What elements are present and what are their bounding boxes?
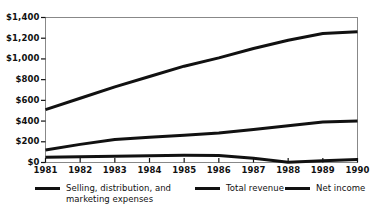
x-axis-tick-label: 1985 bbox=[167, 165, 201, 175]
x-axis-tick-label: 1989 bbox=[306, 165, 340, 175]
legend-swatch-line-icon bbox=[285, 187, 310, 190]
plot-frame bbox=[46, 18, 358, 163]
legend-swatch-line-icon bbox=[195, 187, 220, 190]
chart-legend: Selling, distribution, and marketing exp… bbox=[0, 181, 374, 214]
x-axis-tick-label: 1984 bbox=[133, 165, 167, 175]
y-axis-tick-label: $600 bbox=[15, 95, 39, 105]
y-axis-tick-label: $1,000 bbox=[6, 53, 39, 63]
y-axis-tick-label: $200 bbox=[15, 136, 39, 146]
x-axis-tick-label: 1986 bbox=[202, 165, 236, 175]
legend-label: Total revenue bbox=[226, 183, 284, 194]
x-axis-tick-label: 1983 bbox=[98, 165, 132, 175]
y-axis-tick-label: $800 bbox=[15, 74, 39, 84]
x-axis-tick-label: 1990 bbox=[341, 165, 374, 175]
legend-swatch-line-icon bbox=[35, 187, 60, 190]
legend-item[interactable]: Total revenue bbox=[195, 183, 284, 194]
legend-label: Selling, distribution, and marketing exp… bbox=[66, 183, 171, 204]
x-axis-tick-label: 1988 bbox=[271, 165, 305, 175]
y-axis-tick-label: $1,400 bbox=[6, 12, 39, 22]
series-line-0 bbox=[46, 32, 358, 110]
x-axis-tick-label: 1981 bbox=[29, 165, 63, 175]
series-line-1 bbox=[46, 121, 358, 150]
series-line-2 bbox=[46, 155, 358, 162]
y-axis-tick-label: $400 bbox=[15, 116, 39, 126]
x-axis-tick-label: 1987 bbox=[237, 165, 271, 175]
x-axis-tick-label: 1982 bbox=[63, 165, 97, 175]
legend-item[interactable]: Net income bbox=[285, 183, 365, 194]
legend-item[interactable]: Selling, distribution, and marketing exp… bbox=[35, 183, 171, 204]
y-axis-tick-label: $1,200 bbox=[6, 33, 39, 43]
line-chart-figure: $1,400$1,200$1,000$800$600$400$200$0 198… bbox=[0, 0, 374, 214]
legend-label: Net income bbox=[316, 183, 365, 194]
